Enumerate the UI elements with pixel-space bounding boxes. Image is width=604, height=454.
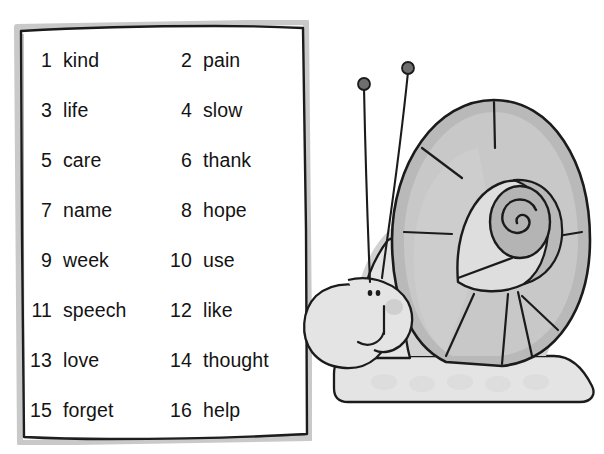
list-item: 8 hope — [154, 192, 312, 228]
word-label: week — [63, 249, 109, 272]
table-row: 15 forget 16 help — [14, 392, 312, 428]
word-number: 12 — [154, 299, 192, 322]
word-label: love — [63, 349, 99, 372]
list-item: 3 life — [14, 92, 154, 128]
cheek-blush — [385, 299, 403, 315]
word-label: thank — [203, 149, 251, 172]
list-item: 6 thank — [154, 142, 312, 178]
word-label: speech — [63, 299, 126, 322]
word-number: 5 — [14, 149, 52, 172]
word-number: 1 — [14, 49, 52, 72]
word-label: forget — [63, 399, 113, 422]
antenna-right-tip — [402, 62, 414, 74]
worksheet-page: 1 kind 2 pain 3 life 4 slow — [0, 0, 604, 454]
word-number: 9 — [14, 249, 52, 272]
list-item: 4 slow — [154, 92, 312, 128]
list-item: 9 week — [14, 242, 154, 278]
word-number: 13 — [14, 349, 52, 372]
list-item: 12 like — [154, 292, 312, 328]
word-number: 3 — [14, 99, 52, 122]
list-item: 13 love — [14, 342, 154, 378]
list-item: 1 kind — [14, 42, 154, 78]
word-label: kind — [63, 49, 99, 72]
word-list-box: 1 kind 2 pain 3 life 4 slow — [14, 20, 312, 445]
antenna-left — [364, 88, 370, 282]
word-number: 7 — [14, 199, 52, 222]
list-item: 10 use — [154, 242, 312, 278]
table-row: 3 life 4 slow — [14, 92, 312, 128]
word-label: pain — [203, 49, 240, 72]
list-item: 5 care — [14, 142, 154, 178]
eye-left — [368, 290, 373, 296]
word-number: 6 — [154, 149, 192, 172]
word-number: 8 — [154, 199, 192, 222]
word-number: 11 — [14, 299, 52, 322]
word-label: use — [203, 249, 235, 272]
word-label: thought — [203, 349, 269, 372]
word-label: life — [63, 99, 88, 122]
word-label: help — [203, 399, 240, 422]
list-item: 15 forget — [14, 392, 154, 428]
table-row: 7 name 8 hope — [14, 192, 312, 228]
word-number: 14 — [154, 349, 192, 372]
word-label: slow — [203, 99, 242, 122]
list-item: 16 help — [154, 392, 312, 428]
table-row: 11 speech 12 like — [14, 292, 312, 328]
word-label: like — [203, 299, 233, 322]
table-row: 5 care 6 thank — [14, 142, 312, 178]
table-row: 1 kind 2 pain — [14, 42, 312, 78]
word-number: 15 — [14, 399, 52, 422]
eye-right — [376, 290, 381, 296]
list-item: 7 name — [14, 192, 154, 228]
antenna-left-tip — [358, 78, 370, 90]
snail-drawing — [296, 44, 604, 454]
snail-illustration — [296, 44, 604, 454]
word-list: 1 kind 2 pain 3 life 4 slow — [14, 20, 312, 445]
word-number: 2 — [154, 49, 192, 72]
list-item: 2 pain — [154, 42, 312, 78]
word-number: 10 — [154, 249, 192, 272]
spiral-center — [490, 186, 550, 258]
word-label: hope — [203, 199, 247, 222]
word-label: name — [63, 199, 112, 222]
clipped-header-text — [180, 0, 600, 8]
table-row: 9 week 10 use — [14, 242, 312, 278]
list-item: 14 thought — [154, 342, 312, 378]
table-row: 13 love 14 thought — [14, 342, 312, 378]
word-label: care — [63, 149, 101, 172]
list-item: 11 speech — [14, 292, 154, 328]
word-number: 4 — [154, 99, 192, 122]
word-number: 16 — [154, 399, 192, 422]
